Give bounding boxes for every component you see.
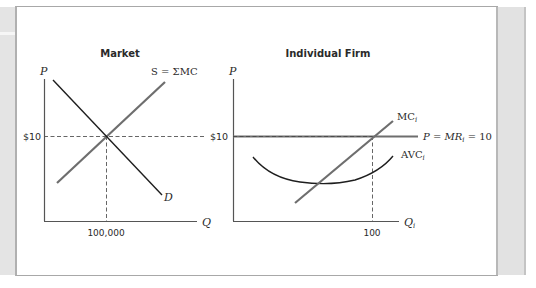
firm-y-axis-label: P xyxy=(228,65,237,78)
firm-panel: Individual Firm P Qi $10 P = MRi = 10 10… xyxy=(210,48,492,238)
market-title: Market xyxy=(100,48,140,59)
firm-x-axis-label: Qi xyxy=(404,216,415,230)
market-panel: Market P Q $10 100,000 S = ΣMC D xyxy=(23,48,211,238)
market-price-tick: $10 xyxy=(23,131,41,142)
demand-label: D xyxy=(163,191,173,204)
supply-curve xyxy=(57,82,165,183)
price-mr-label: P = MRi = 10 xyxy=(422,131,492,144)
market-y-axis-label: P xyxy=(39,65,48,78)
firm-title: Individual Firm xyxy=(286,48,371,59)
market-quantity-tick: 100,000 xyxy=(87,228,124,238)
market-x-axis-label: Q xyxy=(202,216,211,229)
firm-quantity-tick: 100 xyxy=(363,228,380,238)
economics-figure: Market P Q $10 100,000 S = ΣMC D Individ… xyxy=(0,0,536,288)
mc-curve xyxy=(295,121,393,203)
supply-label: S = ΣMC xyxy=(151,66,198,77)
avc-label: AVCi xyxy=(400,149,425,162)
mc-label: MCi xyxy=(397,111,417,124)
demand-curve xyxy=(53,80,162,195)
firm-price-tick: $10 xyxy=(210,131,228,142)
